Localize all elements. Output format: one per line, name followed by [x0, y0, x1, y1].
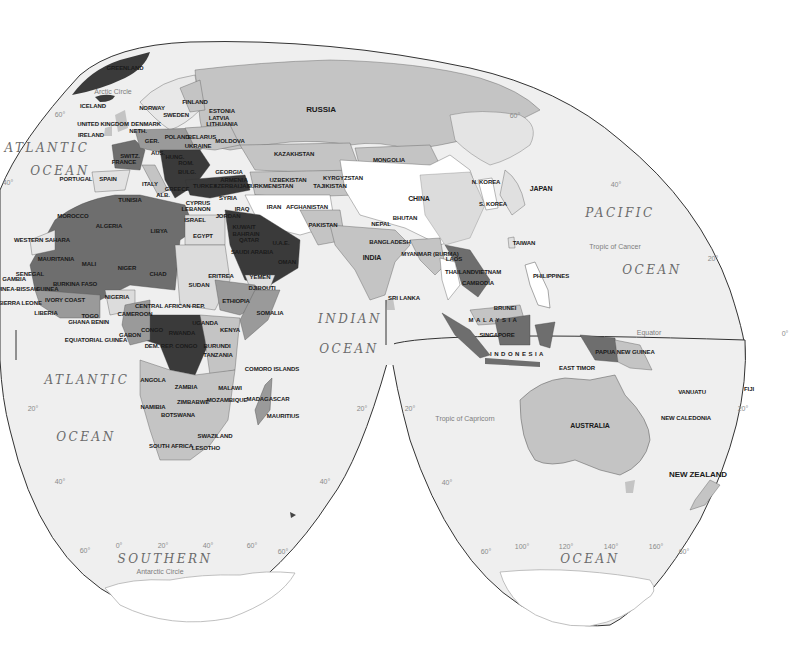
- country-label: ALGERIA: [96, 223, 122, 229]
- country-label: PHILIPPINES: [533, 273, 569, 279]
- country-label: KYRGYZSTAN: [323, 175, 363, 181]
- ocean-label: OCEAN: [319, 342, 378, 356]
- country-label: GER.: [145, 138, 159, 144]
- country-label: NEPAL: [371, 221, 390, 227]
- country-label: BULG.: [178, 169, 196, 175]
- country-label: NEW CALEDONIA: [661, 415, 711, 421]
- country-label: WESTERN SAHARA: [14, 237, 70, 243]
- graticule-label: 120°: [559, 543, 573, 550]
- country-label: LEBANON: [182, 206, 211, 212]
- country-label: VANUATU: [678, 389, 706, 395]
- country-label: MALAYSIA: [469, 317, 520, 323]
- country-label: IRAQ: [235, 206, 250, 212]
- country-label: GEORGIA: [215, 169, 243, 175]
- country-label: TANZANIA: [203, 352, 232, 358]
- country-label: KUWAIT: [232, 224, 255, 230]
- country-label: CHAD: [150, 271, 167, 277]
- graticule-label: 60°: [510, 112, 521, 119]
- country-label: SINGAPORE: [479, 332, 514, 338]
- graticule-label: 60°: [80, 547, 91, 554]
- country-label: ZIMBABWE: [177, 399, 209, 405]
- country-label: SAUDI ARABIA: [231, 249, 273, 255]
- country-label: LIBYA: [151, 228, 168, 234]
- country-label: THAILAND: [445, 269, 475, 275]
- country-label: BURUNDI: [204, 343, 231, 349]
- graticule-label: 40°: [442, 479, 453, 486]
- country-label: EQUATORIAL GUINEA: [65, 337, 127, 343]
- country-label: BANGLADESH: [369, 239, 410, 245]
- country-label: YEMEN: [250, 274, 271, 280]
- ocean-label: OCEAN: [560, 552, 619, 566]
- country-label: ETHIOPIA: [222, 298, 250, 304]
- country-label: MAURITANIA: [38, 256, 75, 262]
- country-label: FRANCE: [112, 159, 136, 165]
- country-label: MALAWI: [218, 385, 242, 391]
- country-label: MOZAMBIQUE: [207, 397, 248, 403]
- country-label: N. KOREA: [472, 179, 501, 185]
- graticule-label: 60°: [278, 548, 289, 555]
- country-label: ROM.: [178, 160, 193, 166]
- country-label: ERITREA: [208, 273, 234, 279]
- country-label: UGANDA: [192, 320, 218, 326]
- country-label: CHINA: [408, 195, 430, 202]
- country-label: TURKMENISTAN: [247, 183, 293, 189]
- country-label: CAMEROON: [118, 311, 153, 317]
- country-label: GREENLAND: [106, 65, 143, 71]
- country-label: KAZAKHSTAN: [274, 151, 314, 157]
- country-label: DEM. REP. CONGO: [145, 343, 198, 349]
- country-label: MOROCCO: [57, 213, 88, 219]
- graticule-label: 160°: [649, 543, 663, 550]
- country-label: UNITED KINGDOM: [77, 121, 129, 127]
- country-label: COMORO ISLANDS: [245, 366, 299, 372]
- country-label: ITALY: [142, 181, 158, 187]
- graticule-label: 100°: [515, 543, 529, 550]
- graticule-label: 40°: [3, 179, 14, 186]
- country-label: BELARUS: [188, 134, 216, 140]
- reference-line-label: Tropic of Cancer: [589, 243, 640, 250]
- country-label: PAKISTAN: [309, 222, 338, 228]
- country-label: UKRAINE: [185, 143, 212, 149]
- country-label: MONGOLIA: [373, 157, 405, 163]
- country-label: SUDAN: [189, 282, 210, 288]
- graticule-label: 40°: [320, 478, 331, 485]
- graticule-label: 60°: [247, 542, 258, 549]
- country-label: ICELAND: [80, 103, 106, 109]
- country-label: RUSSIA: [306, 106, 336, 114]
- country-label: FINLAND: [182, 99, 208, 105]
- country-label: NIGER: [118, 265, 137, 271]
- country-label: LESOTHO: [192, 445, 220, 451]
- country-label: AZERBAIJAN: [213, 183, 251, 189]
- country-label: ANGOLA: [140, 377, 165, 383]
- country-label: PORTUGAL: [60, 176, 93, 182]
- country-label: POLAND: [165, 134, 190, 140]
- country-label: ESTONIA: [209, 108, 235, 114]
- country-label: BURKINA FASO: [53, 281, 97, 287]
- country-label: RWANDA: [169, 330, 195, 336]
- graticule-label: 60°: [481, 548, 492, 555]
- country-label: GUINEA-BISSAU: [0, 286, 38, 292]
- graticule-label: 20°: [357, 405, 368, 412]
- country-label: IRELAND: [78, 132, 104, 138]
- country-label: TAIWAN: [513, 240, 536, 246]
- graticule-label: 20°: [28, 405, 39, 412]
- country-label: JORDAN: [216, 213, 241, 219]
- ocean-label: INDIAN: [318, 312, 382, 326]
- country-label: QATAR: [239, 237, 259, 243]
- country-label: IVORY COAST: [45, 297, 85, 303]
- country-label: BHUTAN: [393, 215, 417, 221]
- graticule-label: 20°: [405, 405, 416, 412]
- country-label: BENIN: [91, 319, 109, 325]
- graticule-label: 20°: [708, 255, 719, 262]
- ocean-label: SOUTHERN: [118, 552, 213, 566]
- country-label: CENTRAL AFRICAN REP.: [135, 303, 205, 309]
- country-label: AUSTRALIA: [570, 422, 610, 429]
- country-label: SRI LANKA: [388, 295, 420, 301]
- country-label: TAJIKISTAN: [313, 183, 346, 189]
- graticule-label: 0°: [782, 330, 789, 337]
- country-label: LIBERIA: [34, 310, 57, 316]
- country-label: NEW ZEALAND: [669, 471, 727, 479]
- country-label: MADAGASCAR: [247, 396, 290, 402]
- country-label: INDONESIA: [490, 351, 546, 357]
- country-label: S. KOREA: [479, 201, 507, 207]
- reference-line-label: Tropic of Capricorn: [435, 415, 494, 422]
